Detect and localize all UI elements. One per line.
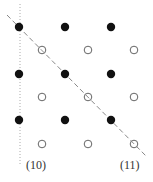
label-11: (11) bbox=[120, 158, 140, 172]
filled-dot bbox=[61, 116, 69, 124]
filled-dot bbox=[107, 70, 115, 78]
open-dot bbox=[84, 46, 92, 54]
filled-dot bbox=[107, 23, 115, 31]
label-10: (10) bbox=[26, 158, 46, 172]
open-dot bbox=[84, 140, 92, 148]
filled-dot bbox=[61, 23, 69, 31]
filled-dot bbox=[61, 70, 69, 78]
filled-dot bbox=[15, 70, 23, 78]
open-dot bbox=[38, 140, 46, 148]
open-dot bbox=[130, 93, 138, 101]
filled-dot bbox=[107, 116, 115, 124]
open-dot bbox=[38, 93, 46, 101]
filled-dot bbox=[15, 116, 23, 124]
lattice-diagram: (10) (11) bbox=[0, 0, 153, 182]
filled-dot bbox=[15, 23, 23, 31]
diagonal-dashed-line-11 bbox=[7, 15, 146, 156]
open-dot bbox=[130, 46, 138, 54]
